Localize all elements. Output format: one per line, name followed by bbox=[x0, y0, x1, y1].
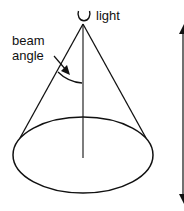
arrow-up-icon bbox=[179, 24, 184, 34]
beam-angle-diagram: light beam angle bbox=[0, 0, 184, 211]
light-bulb-icon bbox=[78, 11, 90, 21]
beam-angle-arc bbox=[58, 72, 82, 83]
light-label: light bbox=[96, 8, 120, 23]
arrow-down-icon bbox=[179, 194, 184, 204]
beam-angle-label-line2: angle bbox=[12, 48, 44, 63]
beam-angle-label-line1: beam bbox=[12, 33, 45, 48]
